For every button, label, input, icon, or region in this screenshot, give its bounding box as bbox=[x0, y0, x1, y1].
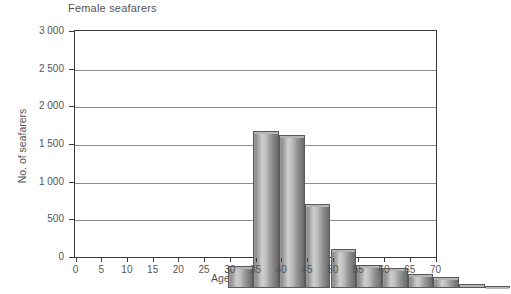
x-tick-label: 10 bbox=[113, 264, 141, 275]
x-tick-mark bbox=[281, 258, 282, 262]
chart-title: Female seafarers bbox=[68, 2, 157, 14]
y-tick-label: 3 000 bbox=[20, 25, 64, 36]
x-tick-mark bbox=[410, 258, 411, 262]
x-tick-mark bbox=[204, 258, 205, 262]
x-tick-label: 25 bbox=[190, 264, 218, 275]
x-tick-label: 15 bbox=[139, 264, 167, 275]
y-tick-mark bbox=[69, 106, 74, 107]
y-tick-label: 2 500 bbox=[20, 63, 64, 74]
x-tick-mark bbox=[127, 258, 128, 262]
bar-series bbox=[151, 62, 511, 288]
x-tick-mark bbox=[384, 258, 385, 262]
x-tick-mark bbox=[230, 258, 231, 262]
y-tick-mark bbox=[69, 257, 74, 258]
y-tick-mark bbox=[69, 69, 74, 70]
x-tick-label: 55 bbox=[344, 264, 372, 275]
x-tick-label: 0 bbox=[62, 264, 90, 275]
x-tick-label: 5 bbox=[87, 264, 115, 275]
bar bbox=[305, 204, 331, 288]
x-tick-mark bbox=[358, 258, 359, 262]
y-tick-mark bbox=[69, 182, 74, 183]
x-tick-mark bbox=[101, 258, 102, 262]
x-tick-label: 65 bbox=[396, 264, 424, 275]
bar bbox=[433, 277, 459, 288]
y-tick-mark bbox=[69, 144, 74, 145]
y-tick-label: 0 bbox=[20, 251, 64, 262]
x-tick-label: 40 bbox=[267, 264, 295, 275]
plot-area bbox=[74, 30, 437, 258]
y-tick-label: 500 bbox=[20, 213, 64, 224]
y-tick-label: 2 000 bbox=[20, 100, 64, 111]
x-tick-label: 35 bbox=[242, 264, 270, 275]
x-tick-mark bbox=[76, 258, 77, 262]
y-tick-mark bbox=[69, 31, 74, 32]
x-tick-mark bbox=[333, 258, 334, 262]
y-tick-mark bbox=[69, 219, 74, 220]
bar bbox=[408, 274, 434, 288]
bar bbox=[485, 286, 511, 288]
x-tick-mark bbox=[256, 258, 257, 262]
x-tick-mark bbox=[307, 258, 308, 262]
x-tick-label: 50 bbox=[319, 264, 347, 275]
x-tick-label: 45 bbox=[293, 264, 321, 275]
x-tick-label: 70 bbox=[422, 264, 450, 275]
x-tick-mark bbox=[178, 258, 179, 262]
x-tick-label: 20 bbox=[164, 264, 192, 275]
y-tick-label: 1 000 bbox=[20, 176, 64, 187]
x-tick-label: 30 bbox=[216, 264, 244, 275]
y-tick-label: 1 500 bbox=[20, 138, 64, 149]
x-tick-mark bbox=[153, 258, 154, 262]
x-tick-label: 60 bbox=[370, 264, 398, 275]
bar bbox=[459, 284, 485, 288]
x-tick-mark bbox=[436, 258, 437, 262]
